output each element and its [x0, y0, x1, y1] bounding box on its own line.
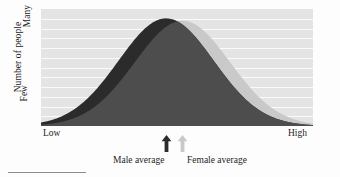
- plot-area: [41, 9, 313, 126]
- distribution-overlap-chart: Number of people Many Few Low High Male: [0, 0, 340, 177]
- male-average-label: Male average: [113, 155, 164, 165]
- y-axis-tick-label-many: Many: [22, 5, 32, 45]
- distribution-curves: [41, 9, 313, 126]
- male-average-arrow-icon: [161, 135, 172, 152]
- y-axis-tick-label-few: Few: [19, 85, 29, 125]
- bottom-divider: [8, 172, 86, 173]
- female-average-label: Female average: [187, 155, 247, 165]
- x-axis-tick-label-low: Low: [43, 128, 60, 138]
- x-axis-tick-label-high: High: [288, 128, 307, 138]
- female-average-arrow-icon: [177, 135, 188, 152]
